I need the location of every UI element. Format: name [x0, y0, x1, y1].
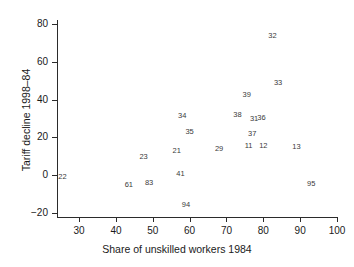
x-axis-title: Share of unskilled workers 1984 [0, 243, 354, 255]
x-tick-mark [153, 217, 154, 222]
data-point-label: 35 [185, 128, 193, 136]
data-point-label: 29 [215, 145, 223, 153]
x-tick-mark [116, 217, 117, 222]
x-axis-line [57, 217, 338, 218]
y-axis-title: Tariff decline 1998–84 [20, 25, 32, 215]
y-tick-mark [52, 62, 57, 63]
x-tick-mark [300, 217, 301, 222]
x-tick-mark [190, 217, 191, 222]
data-point-label: 23 [139, 154, 147, 162]
data-point-label: 11 [245, 142, 253, 150]
x-tick-label: 30 [64, 226, 94, 236]
y-tick-mark [52, 100, 57, 101]
x-tick-label: 80 [248, 226, 278, 236]
data-point-label: 38 [233, 111, 241, 119]
x-tick-label: 70 [211, 226, 241, 236]
x-tick-label: 50 [138, 226, 168, 236]
data-point-label: 61 [125, 181, 133, 189]
data-point-label: 37 [248, 130, 256, 138]
data-point-label: 83 [145, 179, 153, 187]
y-axis-line [57, 20, 58, 217]
x-tick-label: 40 [101, 226, 131, 236]
data-point-label: 12 [259, 142, 267, 150]
data-point-label: 34 [178, 112, 186, 120]
x-tick-mark [226, 217, 227, 222]
data-point-label: 94 [182, 201, 190, 209]
y-tick-mark [52, 175, 57, 176]
data-point-label: 95 [307, 180, 315, 188]
data-point-label: 41 [176, 171, 184, 179]
x-tick-mark [79, 217, 80, 222]
scatter-plot-figure: −20020406080 30405060708090100 226123832… [0, 0, 354, 267]
x-tick-label: 60 [175, 226, 205, 236]
data-point-label: 33 [274, 80, 282, 88]
x-tick-mark [337, 217, 338, 222]
data-point-label: 39 [243, 91, 251, 99]
data-point-label: 32 [268, 32, 276, 40]
data-point-label: 21 [173, 147, 181, 155]
x-tick-label: 90 [285, 226, 315, 236]
y-tick-mark [52, 213, 57, 214]
x-tick-label: 100 [322, 226, 352, 236]
data-point-label: 36 [257, 114, 265, 122]
data-point-label: 22 [58, 173, 66, 181]
y-tick-mark [52, 24, 57, 25]
data-point-label: 13 [292, 143, 300, 151]
y-tick-mark [52, 137, 57, 138]
x-tick-mark [263, 217, 264, 222]
